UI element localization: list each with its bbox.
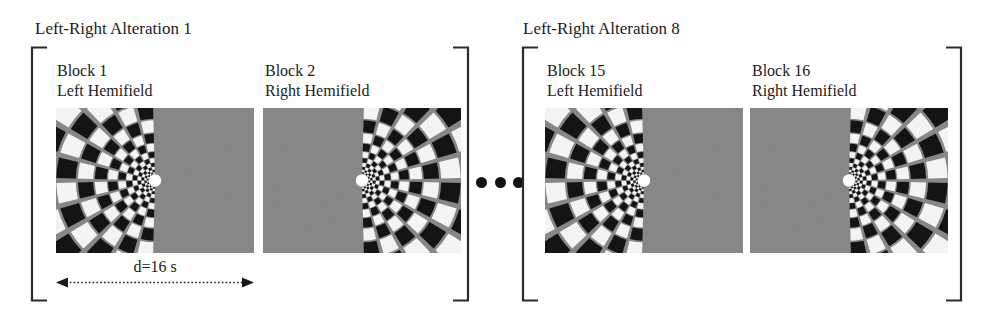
panel-label-block-15: Block 15 Left Hemifield [547, 61, 643, 101]
duration-label: d=16 s [56, 258, 254, 276]
stimulus-panel-block-15 [545, 108, 743, 253]
radial-checkerboard-right-hemifield [263, 108, 461, 253]
hemifield-label-2: Right Hemifield [265, 81, 369, 101]
stimulus-panel-block-2 [263, 108, 461, 253]
hemifield-label-15: Left Hemifield [547, 81, 643, 101]
hemifield-label-16: Right Hemifield [752, 81, 856, 101]
experimental-design-figure: Left-Right Alteration 1 Block 1 Left Hem… [0, 0, 990, 319]
block-label-1: Block 1 [57, 61, 153, 81]
radial-checkerboard-left-hemifield [545, 108, 743, 253]
panel-label-block-16: Block 16 Right Hemifield [752, 61, 856, 101]
block-label-15: Block 15 [547, 61, 643, 81]
group-heading-alteration-8: Left-Right Alteration 8 [523, 19, 680, 38]
panel-label-block-2: Block 2 Right Hemifield [265, 61, 369, 101]
block-label-2: Block 2 [265, 61, 369, 81]
ellipsis-dot-1 [476, 177, 487, 188]
hemifield-label-1: Left Hemifield [57, 81, 153, 101]
stimulus-panel-block-1 [56, 108, 254, 253]
ellipsis-dot-2 [495, 177, 506, 188]
stimulus-panel-block-16 [750, 108, 948, 253]
group-2-left-bracket [521, 46, 539, 302]
radial-checkerboard-right-hemifield [750, 108, 948, 253]
duration-double-arrow [56, 276, 254, 289]
block-duration-annotation: d=16 s [56, 258, 254, 290]
continuation-ellipsis [476, 176, 524, 189]
radial-checkerboard-left-hemifield [56, 108, 254, 253]
group-heading-alteration-1: Left-Right Alteration 1 [35, 19, 192, 38]
panel-label-block-1: Block 1 Left Hemifield [57, 61, 153, 101]
block-label-16: Block 16 [752, 61, 856, 81]
group-1-left-bracket [30, 46, 48, 302]
